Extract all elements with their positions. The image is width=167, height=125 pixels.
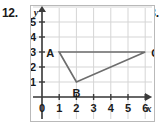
problem-number-12: 12. xyxy=(2,7,18,19)
x-tick-label-3: 3 xyxy=(91,102,97,114)
axis-names: xy xyxy=(33,7,152,114)
y-axis-name: y xyxy=(33,7,39,18)
x-tick-label-2: 2 xyxy=(73,102,79,114)
coordinate-graph: 012345612345 ABC xy xyxy=(30,5,155,122)
x-tick-label-4: 4 xyxy=(108,102,115,114)
y-tick-label-1: 1 xyxy=(31,76,36,88)
x-axis-arrow xyxy=(145,93,152,101)
vertex-label-a: A xyxy=(46,47,54,59)
x-axis-name: x xyxy=(146,103,152,114)
vertex-label-c: C xyxy=(151,47,154,59)
vertex-label-b: B xyxy=(72,87,80,99)
tick-labels: 012345612345 xyxy=(31,16,148,114)
x-tick-label-0: 0 xyxy=(39,102,45,114)
x-tick-label-5: 5 xyxy=(125,102,131,114)
coordinate-plane-svg: 012345612345 ABC xy xyxy=(31,6,154,121)
x-tick-label-1: 1 xyxy=(56,102,62,114)
y-tick-label-3: 3 xyxy=(31,46,36,58)
y-tick-label-4: 4 xyxy=(31,31,37,43)
figure-page: 12. 13. 012345612345 ABC xy xyxy=(0,0,167,125)
y-tick-label-2: 2 xyxy=(31,61,36,73)
